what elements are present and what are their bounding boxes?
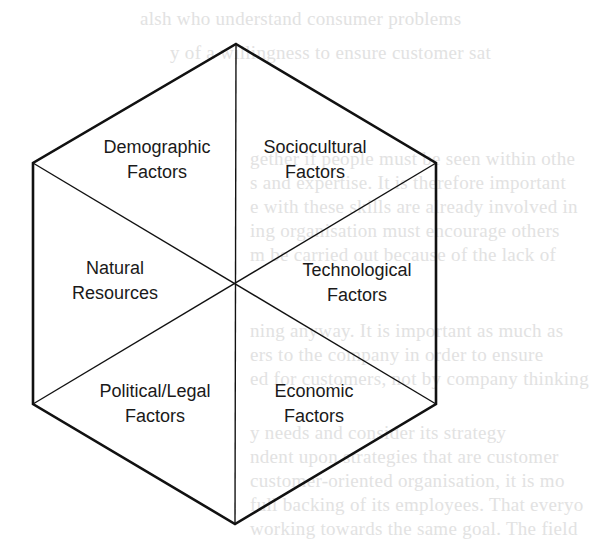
segment-label-line2: Factors	[274, 404, 353, 429]
segment-label-line1: Economic	[274, 379, 353, 404]
segment-label-line1: Political/Legal	[99, 379, 210, 404]
segment-economic-factors: Economic Factors	[274, 379, 353, 429]
segment-label-line2: Resources	[72, 281, 158, 306]
segment-label-line1: Demographic	[103, 135, 210, 160]
segment-political-legal-factors: Political/Legal Factors	[99, 379, 210, 429]
segment-sociocultural-factors: Sociocultural Factors	[263, 135, 366, 185]
segment-label-line1: Natural	[72, 256, 158, 281]
segment-label-line1: Technological	[302, 258, 411, 283]
segment-demographic-factors: Demographic Factors	[103, 135, 210, 185]
segment-label-line1: Sociocultural	[263, 135, 366, 160]
segment-label-line2: Factors	[103, 160, 210, 185]
segment-natural-resources: Natural Resources	[72, 256, 158, 306]
segment-label-line2: Factors	[302, 283, 411, 308]
segment-label-line2: Factors	[99, 404, 210, 429]
segment-label-line2: Factors	[263, 160, 366, 185]
segment-technological-factors: Technological Factors	[302, 258, 411, 308]
